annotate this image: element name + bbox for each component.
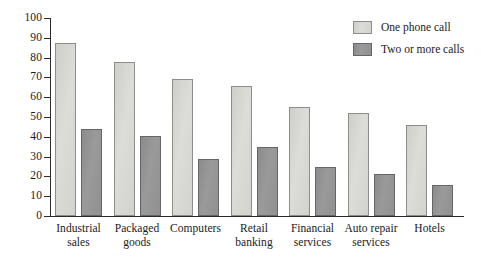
bar	[348, 113, 369, 216]
legend-swatch	[353, 21, 372, 34]
y-axis-tick-label: 40	[2, 131, 42, 142]
legend-label: Two or more calls	[381, 43, 464, 56]
bar	[140, 136, 161, 216]
x-axis-line	[50, 216, 464, 217]
y-axis-tick-label: 90	[2, 32, 42, 43]
bar	[198, 159, 219, 216]
bar	[406, 125, 427, 216]
y-axis-tick	[44, 216, 51, 217]
y-axis-tick	[44, 77, 51, 78]
y-axis-tick	[44, 38, 51, 39]
x-axis-label-line: services	[328, 236, 414, 250]
legend-item: Two or more calls	[353, 41, 464, 58]
bar-group	[172, 18, 219, 216]
y-axis-tick-label: 20	[2, 170, 42, 181]
bar	[374, 174, 395, 216]
bar	[55, 43, 76, 216]
y-axis-tick-label: 100	[2, 12, 42, 23]
y-axis-tick-label: 60	[2, 91, 42, 102]
bar-group	[289, 18, 336, 216]
y-axis-tick	[44, 176, 51, 177]
legend-label: One phone call	[381, 21, 451, 34]
y-axis-tick	[44, 18, 51, 19]
y-axis-tick-label: 50	[2, 111, 42, 122]
y-axis-tick-label: 70	[2, 71, 42, 82]
bar	[231, 86, 252, 216]
legend-item: One phone call	[353, 19, 464, 36]
x-axis-label-line: goods	[94, 236, 180, 250]
y-axis-tick-label: 30	[2, 151, 42, 162]
bar-group	[114, 18, 161, 216]
y-axis-tick-label: 10	[2, 190, 42, 201]
y-axis-tick	[44, 196, 51, 197]
bar-group	[55, 18, 102, 216]
bar	[289, 107, 310, 216]
bar	[432, 185, 453, 216]
bar	[81, 129, 102, 216]
x-axis-label: Hotels	[387, 222, 473, 236]
y-axis-tick	[44, 157, 51, 158]
bar-chart: 1009080706050403020100 IndustrialsalesPa…	[0, 0, 481, 267]
legend-swatch	[353, 43, 372, 56]
y-axis-tick	[44, 137, 51, 138]
y-axis-tick	[44, 117, 51, 118]
y-axis-tick-label: 80	[2, 52, 42, 63]
chart-legend: One phone callTwo or more calls	[353, 19, 464, 63]
y-axis-tick	[44, 58, 51, 59]
bar	[172, 79, 193, 216]
bar	[315, 167, 336, 217]
y-axis-tick-label: 0	[2, 210, 42, 221]
bar-group	[231, 18, 278, 216]
bar	[257, 147, 278, 216]
y-axis-tick	[44, 97, 51, 98]
x-axis-label-line: Hotels	[387, 222, 473, 236]
bar	[114, 62, 135, 216]
